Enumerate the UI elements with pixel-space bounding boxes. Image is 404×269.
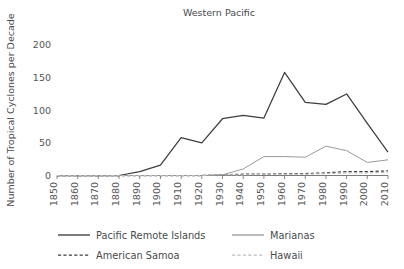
y-tick-label: 50	[39, 137, 51, 148]
y-tick-label: 100	[33, 105, 51, 116]
series-line-pacific-remote-islands	[57, 72, 388, 175]
legend-label-american-samoa: American Samoa	[96, 250, 180, 261]
x-tick-label: 1960	[276, 182, 287, 206]
y-axis-label: Number of Tropical Cyclones per Decade	[5, 13, 16, 206]
x-tick-label: 1990	[338, 182, 349, 206]
x-tick-label: 1940	[234, 182, 245, 206]
x-tick-label: 1930	[214, 182, 225, 206]
chart-legend: Pacific Remote IslandsMarianasAmerican S…	[58, 230, 315, 261]
x-tick-label: 1860	[69, 182, 80, 206]
x-tick-label: 1870	[89, 182, 100, 206]
y-tick-label: 0	[45, 170, 51, 181]
x-tick-label: 1880	[110, 182, 121, 206]
western-pacific-line-chart: Western Pacific Number of Tropical Cyclo…	[0, 0, 404, 269]
chart-title: Western Pacific	[183, 7, 255, 18]
y-tick-label: 200	[33, 39, 51, 50]
x-tick-label: 2010	[379, 182, 390, 206]
series-line-marianas	[57, 146, 388, 175]
x-tick-label: 1920	[193, 182, 204, 206]
x-tick-label: 1980	[317, 182, 328, 206]
x-tick-label: 1890	[131, 182, 142, 206]
x-tick-label: 1950	[255, 182, 266, 206]
series-lines	[57, 72, 388, 175]
x-tick-label: 1900	[151, 182, 162, 206]
legend-label-marianas: Marianas	[270, 230, 315, 241]
y-tick-label: 150	[33, 72, 51, 83]
legend-label-hawaii: Hawaii	[270, 250, 303, 261]
legend-label-pacific-remote-islands: Pacific Remote Islands	[96, 230, 205, 241]
x-axis-ticks: 1850186018701880189019001910192019301940…	[48, 176, 390, 207]
x-tick-label: 2000	[358, 182, 369, 206]
x-tick-label: 1850	[48, 182, 59, 206]
chart-container: Western Pacific Number of Tropical Cyclo…	[0, 0, 404, 269]
y-axis-ticks: 050100150200	[33, 39, 51, 181]
x-tick-label: 1910	[172, 182, 183, 206]
x-tick-label: 1970	[296, 182, 307, 206]
